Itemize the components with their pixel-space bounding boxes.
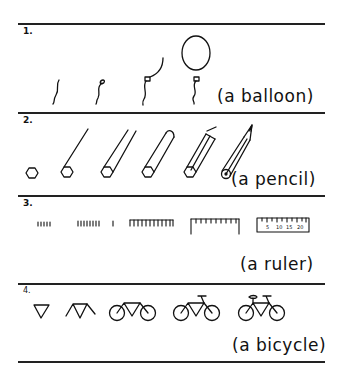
ruler-label-20: 20: [297, 224, 303, 230]
ruler-label-10: 10: [276, 224, 282, 230]
ruler-step-3-icon: [130, 220, 173, 226]
balloon-step-3-icon: [143, 58, 163, 105]
balloon-step-1-icon: [53, 80, 59, 104]
pencil-step-2-icon: [61, 129, 88, 177]
bicycle-step-3-icon: [110, 303, 156, 321]
pencil-step-1-icon: [26, 168, 38, 178]
ruler-step-2-icon: [78, 221, 113, 226]
bicycle-step-5-icon: [239, 296, 285, 321]
pencil-step-3-icon: [101, 130, 136, 177]
balloon-step-2-icon: [96, 80, 104, 104]
ruler-label-15: 15: [286, 224, 292, 230]
bicycle-step-1-icon: [34, 305, 49, 318]
ruler-step-1-icon: [38, 222, 50, 226]
ruler-label-5: 5: [266, 224, 269, 230]
pencil-step-4-icon: [142, 131, 174, 177]
pencil-step-6-icon: [222, 125, 253, 179]
bicycle-step-2-icon: [66, 304, 95, 318]
balloon-step-4-icon: [182, 36, 210, 104]
bicycle-step-4-icon: [174, 296, 220, 321]
pencil-step-5-icon: [184, 127, 216, 177]
ruler-step-4-icon: [191, 219, 239, 234]
